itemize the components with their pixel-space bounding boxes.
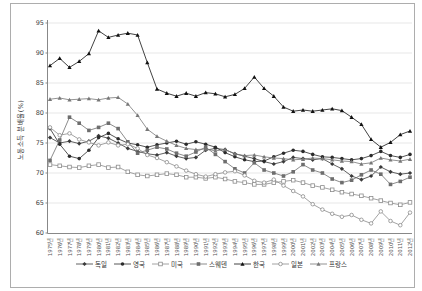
legend-marker-sweden	[190, 260, 207, 268]
svg-text:2004년: 2004년	[328, 238, 335, 257]
svg-text:95: 95	[36, 19, 44, 27]
y-axis-title: 노동소득 분배율(%)	[15, 100, 25, 161]
svg-text:1984년: 1984년	[134, 238, 141, 257]
svg-text:1999년: 1999년	[280, 238, 287, 257]
svg-text:2010년: 2010년	[387, 238, 394, 257]
svg-text:1981년: 1981년	[104, 238, 111, 257]
svg-text:1990년: 1990년	[192, 238, 199, 257]
svg-text:1986년: 1986년	[153, 238, 160, 257]
gridlines	[48, 23, 412, 203]
svg-text:2003년: 2003년	[318, 238, 325, 257]
svg-text:2005년: 2005년	[338, 238, 345, 257]
svg-text:90: 90	[36, 49, 44, 57]
svg-text:1982년: 1982년	[114, 238, 121, 257]
legend-marker-japan	[272, 260, 289, 268]
svg-text:1992년: 1992년	[211, 238, 218, 257]
svg-text:1978년: 1978년	[75, 238, 82, 257]
legend-item-france: 프랑스	[310, 259, 347, 269]
svg-text:1998년: 1998년	[270, 238, 277, 257]
svg-text:2002년: 2002년	[309, 238, 316, 257]
svg-text:2012년: 2012년	[406, 238, 413, 257]
svg-text:1996년: 1996년	[250, 237, 257, 256]
line-chart: 60657075808590951975년1976년1977년1978년1979…	[0, 0, 422, 291]
svg-text:1977년: 1977년	[66, 238, 73, 257]
svg-text:85: 85	[36, 79, 44, 87]
legend-marker-germany	[76, 260, 93, 268]
legend-item-korea: 한국	[234, 259, 265, 269]
svg-text:1985년: 1985년	[143, 238, 150, 257]
svg-text:1989년: 1989년	[182, 238, 189, 257]
legend-item-uk: 영국	[114, 259, 145, 269]
svg-text:1994년: 1994년	[231, 238, 238, 257]
svg-text:70: 70	[36, 169, 44, 177]
svg-text:1988년: 1988년	[173, 238, 180, 257]
legend-item-germany: 독일	[76, 259, 107, 269]
series-sweden	[48, 115, 412, 186]
legend-label-france: 프랑스	[329, 259, 347, 269]
svg-text:2007년: 2007년	[357, 238, 364, 257]
svg-text:2008년: 2008년	[367, 238, 374, 257]
legend-marker-france	[310, 260, 327, 268]
legend-marker-korea	[234, 260, 251, 268]
series-germany	[48, 134, 412, 182]
svg-text:1991년: 1991년	[202, 238, 209, 257]
svg-text:1975년: 1975년	[46, 238, 53, 257]
svg-text:75: 75	[36, 139, 44, 147]
svg-text:2006년: 2006년	[348, 238, 355, 257]
legend-label-sweden: 스웨덴	[209, 259, 227, 269]
svg-text:1979년: 1979년	[85, 238, 92, 257]
legend-label-japan: 일본	[291, 259, 303, 269]
legend-item-sweden: 스웨덴	[190, 259, 227, 269]
legend-item-usa: 미국	[152, 259, 183, 269]
svg-text:80: 80	[36, 109, 44, 117]
legend-label-usa: 미국	[171, 259, 183, 269]
svg-text:1995년: 1995년	[241, 238, 248, 257]
series-japan	[48, 126, 412, 227]
series-usa	[48, 163, 412, 207]
svg-text:1987년: 1987년	[163, 238, 170, 257]
chart-legend: 독일영국미국스웨덴한국일본프랑스	[0, 259, 422, 269]
svg-text:65: 65	[36, 199, 44, 207]
legend-item-japan: 일본	[272, 259, 303, 269]
x-axis-tick-labels: 1975년1976년1977년1978년1979년1980년1981년1982년…	[46, 237, 413, 256]
svg-text:2011년: 2011년	[396, 238, 403, 257]
svg-text:2009년: 2009년	[377, 238, 384, 257]
svg-text:1976년: 1976년	[56, 238, 63, 257]
legend-marker-usa	[152, 260, 169, 268]
svg-text:60: 60	[36, 229, 44, 237]
svg-text:2001년: 2001년	[299, 238, 306, 257]
legend-label-uk: 영국	[133, 259, 145, 269]
series-korea	[48, 29, 412, 149]
svg-text:1983년: 1983년	[124, 238, 131, 257]
svg-text:2000년: 2000년	[289, 238, 296, 257]
series-uk	[48, 127, 412, 164]
svg-text:1993년: 1993년	[221, 238, 228, 257]
legend-label-korea: 한국	[253, 259, 265, 269]
svg-text:1980년: 1980년	[95, 238, 102, 257]
svg-text:1997년: 1997년	[260, 238, 267, 257]
y-axis-tick-labels: 6065707580859095	[36, 19, 44, 237]
legend-marker-uk	[114, 260, 131, 268]
series-france	[48, 95, 412, 165]
legend-label-germany: 독일	[95, 259, 107, 269]
